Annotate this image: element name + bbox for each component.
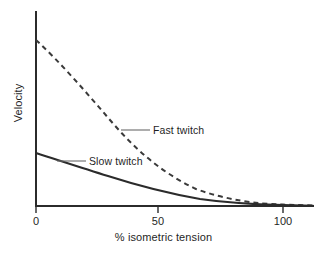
x-axis-label: % isometric tension: [0, 231, 327, 243]
curve-fast-twitch: [36, 40, 313, 206]
series-label-fast-twitch: Fast twitch: [153, 124, 204, 136]
x-tick-label-0: 0: [33, 215, 39, 227]
y-axis-label-wrapper: Velocity: [6, 0, 30, 206]
series-label-slow-twitch: Slow twitch: [89, 155, 143, 167]
x-tick-label-50: 50: [152, 215, 164, 227]
force-velocity-chart: 0 50 100 % isometric tension Velocity Fa…: [0, 0, 327, 262]
y-axis-label: Velocity: [12, 84, 24, 123]
x-tick-label-100: 100: [274, 215, 293, 227]
